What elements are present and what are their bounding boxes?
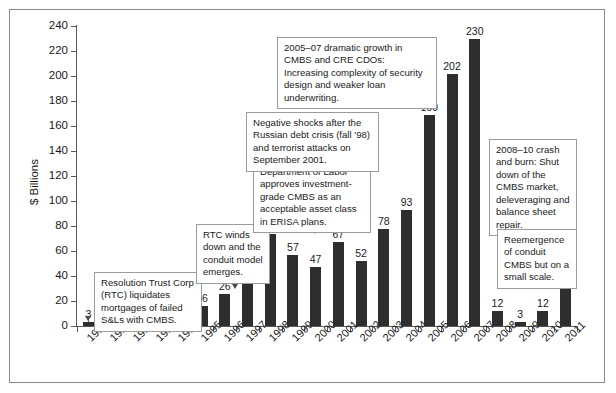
arrowhead-resolution-trust — [85, 316, 91, 321]
y-axis-tick-mark — [71, 251, 77, 252]
bar — [424, 115, 435, 326]
arrowhead-rtc-winds-down — [232, 284, 238, 289]
callout-reemergence-text: Reemergence of conduit CMBS but on a sma… — [504, 234, 569, 282]
y-axis-tick-label: 120 — [22, 170, 68, 182]
callout-rtc-winds-down-text: RTC winds down and the conduit model eme… — [203, 229, 263, 277]
bar — [333, 242, 344, 326]
bar — [401, 210, 412, 326]
y-axis-tick-label: 20 — [22, 295, 68, 307]
y-axis-tick-mark — [71, 226, 77, 227]
bar-value-label: 3 — [505, 309, 535, 320]
bar — [537, 311, 548, 326]
callout-negative-shocks: Negative shocks after the Russian debt c… — [246, 112, 379, 172]
y-axis-tick-mark — [71, 26, 77, 27]
y-axis-tick-mark — [71, 301, 77, 302]
x-axis-tick-mark — [77, 327, 78, 332]
bar — [378, 229, 389, 327]
y-axis-tick-mark — [71, 101, 77, 102]
bar — [447, 74, 458, 327]
bar-value-label: 78 — [369, 216, 399, 227]
bar — [242, 280, 253, 326]
bar — [219, 294, 230, 327]
callout-crash-and-burn-text: 2008–10 crash and burn: Shut down of the… — [496, 144, 570, 230]
callout-resolution-trust-text: Resolution Trust Corp (RTC) liquidates m… — [101, 277, 194, 325]
bar-value-label: 12 — [528, 298, 558, 309]
callout-dramatic-growth-text: 2005–07 dramatic growth in CMBS and CRE … — [284, 42, 423, 103]
bar-value-label: 230 — [460, 26, 490, 37]
callout-department-of-labor-text: Department of Labor approves investment-… — [260, 166, 357, 227]
chart-figure: $ Billions 02040608010012014016018020022… — [0, 0, 616, 393]
y-axis-tick-label: 0 — [22, 320, 68, 332]
y-axis-tick-label: 240 — [22, 20, 68, 32]
callout-reemergence: Reemergence of conduit CMBS but on a sma… — [497, 229, 577, 289]
y-axis-tick-label: 180 — [22, 95, 68, 107]
y-axis-tick-mark — [71, 151, 77, 152]
y-axis-tick-label: 140 — [22, 145, 68, 157]
callout-negative-shocks-text: Negative shocks after the Russian debt c… — [253, 117, 370, 165]
y-axis-tick-label: 80 — [22, 220, 68, 232]
bar-value-label: 12 — [482, 298, 512, 309]
bar — [83, 322, 94, 326]
y-axis-tick-label: 220 — [22, 45, 68, 57]
y-axis-tick-label: 40 — [22, 270, 68, 282]
y-axis-tick-mark — [71, 201, 77, 202]
bar-value-label: 93 — [392, 197, 422, 208]
y-axis-tick-label: 160 — [22, 120, 68, 132]
bar-value-label: 52 — [346, 248, 376, 259]
callout-crash-and-burn: 2008–10 crash and burn: Shut down of the… — [489, 139, 577, 236]
y-axis-tick-mark — [71, 126, 77, 127]
bar-value-label: 47 — [301, 254, 331, 265]
y-axis-tick-mark — [71, 276, 77, 277]
y-axis-tick-label: 60 — [22, 245, 68, 257]
bar — [310, 267, 321, 326]
y-axis-tick-mark — [71, 176, 77, 177]
y-axis-tick-mark — [71, 51, 77, 52]
y-axis-tick-label: 200 — [22, 70, 68, 82]
bar — [560, 285, 571, 326]
bar — [287, 255, 298, 326]
bar-value-label: 57 — [278, 242, 308, 253]
bar — [469, 39, 480, 327]
y-axis-tick-label: 100 — [22, 195, 68, 207]
bar-value-label: 202 — [437, 61, 467, 72]
callout-dramatic-growth: 2005–07 dramatic growth in CMBS and CRE … — [277, 37, 437, 109]
bar — [356, 261, 367, 326]
callout-resolution-trust: Resolution Trust Corp (RTC) liquidates m… — [94, 272, 202, 332]
bar — [492, 311, 503, 326]
y-axis-tick-mark — [71, 76, 77, 77]
bar — [515, 322, 526, 326]
